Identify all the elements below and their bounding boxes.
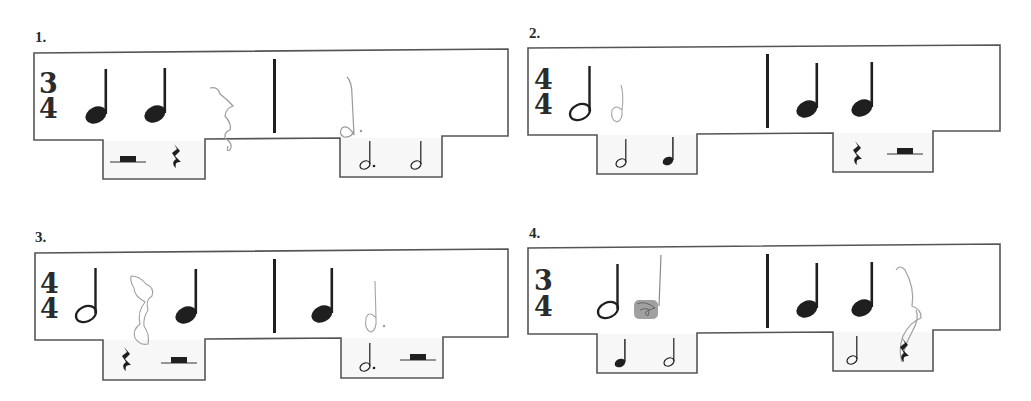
exercise-1-choice-tab-left[interactable] (104, 141, 204, 178)
exercise-1-time-signature: 3 4 (39, 68, 58, 124)
barline (766, 254, 769, 328)
pencil-dot-mark (360, 130, 362, 132)
exercise-2: 4 4 (528, 45, 1000, 174)
exercise-4: 3 4 (528, 244, 1000, 373)
exercise-3-choice-tab-left[interactable] (104, 340, 204, 379)
exercise-4-choice-tab-left[interactable] (598, 334, 696, 372)
exercise-3-choice-tab-right[interactable] (342, 338, 442, 377)
svg-text:4: 4 (534, 89, 553, 120)
exercise-2-choice-tab-right[interactable] (834, 133, 932, 171)
exercise-2-choice-tab-left[interactable] (598, 135, 696, 173)
worksheet-canvas: 3 4 4 4 4 (0, 0, 1031, 401)
exercise-2-time-signature: 4 4 (534, 64, 553, 120)
svg-text:4: 4 (39, 93, 58, 124)
svg-text:4: 4 (534, 291, 553, 322)
exercise-3-time-signature: 4 4 (40, 268, 59, 324)
pencil-dot-mark (383, 325, 386, 328)
exercise-4-choice-tab-right[interactable] (834, 332, 932, 370)
exercise-1-choice-tab-right[interactable] (341, 138, 441, 176)
exercise-1: 3 4 (34, 49, 508, 179)
barline (766, 54, 769, 128)
exercise-4-time-signature: 3 4 (534, 265, 553, 322)
svg-text:4: 4 (40, 293, 59, 324)
barline (273, 59, 276, 133)
exercise-3: 4 4 (35, 249, 508, 380)
barline (273, 259, 276, 333)
